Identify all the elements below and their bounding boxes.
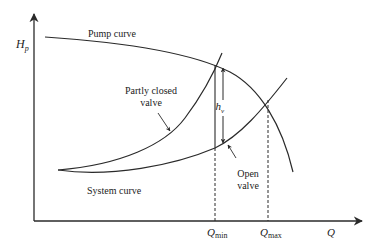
system-curve-label: System curve [87,185,142,196]
pump-system-curve-diagram: Hp Pump curve Partly closed valve System… [0,0,380,250]
open-valve-label: Open [237,168,259,179]
x-axis-label: Q [327,226,335,238]
q-min-label: Qmin [207,226,227,240]
partly-closed-leader [158,113,170,131]
pump-curve-label: Pump curve [88,28,137,39]
partly-closed-valve-curve [58,53,222,170]
partly-closed-valve-label-2: valve [140,97,162,108]
y-axis-label: Hp [15,37,29,53]
open-valve-label-2: valve [237,180,259,191]
q-max-label: Qmax [260,226,282,240]
pump-curve [45,37,293,172]
open-valve-leader [228,145,236,158]
partly-closed-valve-label: Partly closed [125,85,177,96]
hv-label: hv [215,100,225,115]
